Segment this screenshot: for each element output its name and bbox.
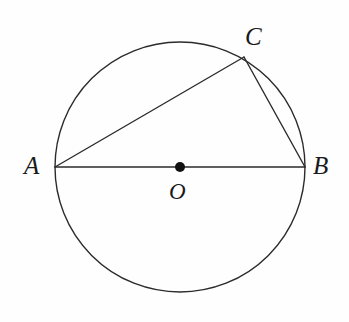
point-label-b: B <box>313 153 328 178</box>
point-label-c: C <box>245 24 262 49</box>
segment-ac <box>55 57 244 167</box>
segment-cb <box>244 57 305 167</box>
center-point-dot <box>175 162 185 172</box>
geometry-canvas <box>0 0 349 322</box>
geometry-figure: A B C O <box>0 0 349 322</box>
point-label-o: O <box>169 180 186 203</box>
point-label-a: A <box>24 153 39 178</box>
